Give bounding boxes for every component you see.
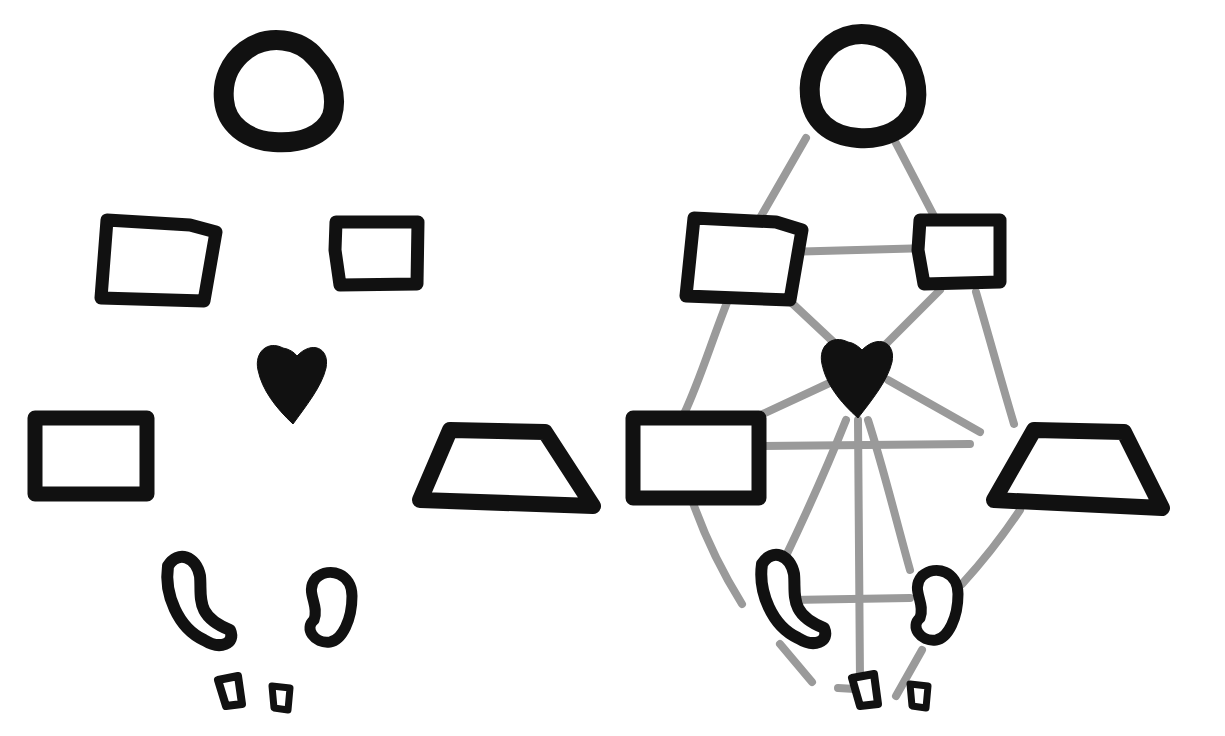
edge-lower-left-lower-right (790, 598, 910, 600)
upper-left-square (101, 220, 216, 301)
foot-left-square (218, 676, 242, 706)
upper-right-square (335, 222, 418, 285)
heart-shape (257, 345, 326, 424)
edge-heart-foot (858, 420, 860, 680)
mid-left-rectangle (35, 418, 147, 494)
foot-right-square (272, 686, 290, 710)
lower-right-bean (916, 570, 958, 640)
edge-heart-lower-left (784, 420, 846, 560)
edge-head-upper-left (760, 138, 806, 218)
lower-left-bean (167, 557, 231, 645)
edge-mid-right-lower-right (962, 510, 1020, 584)
edge-upper-left-mid-left (684, 300, 728, 414)
upper-left-square (686, 218, 802, 300)
heart-shape (821, 339, 892, 418)
mid-right-trapezoid (420, 430, 593, 506)
mid-right-trapezoid (994, 430, 1162, 508)
mid-left-rectangle (633, 418, 759, 498)
edge-heart-mid-right (888, 380, 980, 432)
foot-left-square (852, 674, 878, 706)
head-circle (810, 34, 917, 138)
edge-mid-left-lower-left (692, 500, 742, 604)
right-panel (633, 34, 1162, 708)
edge-upper-left-upper-right (784, 248, 930, 252)
diagram-canvas (0, 0, 1225, 736)
lower-right-bean (310, 572, 352, 642)
edge-upper-right-mid-right (976, 292, 1014, 424)
upper-right-square (918, 220, 1000, 284)
head-circle (224, 40, 334, 142)
left-panel (35, 40, 593, 710)
edge-upper-right-heart (880, 290, 940, 350)
edge-lower-left-foot-left (780, 644, 812, 682)
foot-right-square (910, 684, 928, 708)
